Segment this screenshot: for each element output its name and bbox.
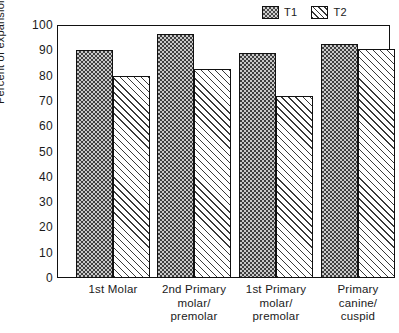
legend-label-t2: T2 xyxy=(333,6,346,18)
y-tick-label-80: 80 xyxy=(0,69,53,83)
y-tick-label-70: 70 xyxy=(0,94,53,108)
x-axis-category-labels: 1st Molar2nd Primarymolar/premolar1st Pr… xyxy=(57,283,390,333)
y-axis-tick-labels: 1009080706050403020100 xyxy=(0,0,53,333)
legend-label-t1: T1 xyxy=(284,6,297,18)
y-tick-label-50: 50 xyxy=(0,145,53,159)
y-tick-label-0: 0 xyxy=(0,271,53,285)
y-tick-label-20: 20 xyxy=(0,220,53,234)
y-tick-label-30: 30 xyxy=(0,195,53,209)
y-tick-label-40: 40 xyxy=(0,170,53,184)
bar-series-container xyxy=(57,25,390,278)
legend-entry-t1: T1 xyxy=(262,6,297,19)
y-tick-label-100: 100 xyxy=(0,18,53,32)
x-category-label-4: Primarycanine/cuspid xyxy=(308,283,399,324)
y-tick-label-90: 90 xyxy=(0,43,53,57)
x-category-line: Primary xyxy=(308,283,399,297)
bar-group-1 xyxy=(76,25,150,278)
legend-entry-t2: T2 xyxy=(311,6,346,19)
bar-t2-2[interactable] xyxy=(194,69,231,278)
bar-t1-3[interactable] xyxy=(239,53,276,278)
bar-t1-1[interactable] xyxy=(76,50,113,278)
legend-swatch-t2-icon xyxy=(311,6,328,19)
bar-t1-4[interactable] xyxy=(321,44,358,278)
bar-group-3 xyxy=(239,25,313,278)
x-category-line: cuspid xyxy=(308,310,399,324)
bar-t1-2[interactable] xyxy=(157,34,194,278)
bar-group-2 xyxy=(157,25,231,278)
bar-t2-3[interactable] xyxy=(276,96,313,278)
bar-t2-4[interactable] xyxy=(358,49,395,278)
chart-legend: T1 T2 xyxy=(262,3,347,21)
bar-t2-1[interactable] xyxy=(113,76,150,278)
x-category-line: canine/ xyxy=(308,297,399,311)
y-tick-label-10: 10 xyxy=(0,246,53,260)
legend-swatch-t1-icon xyxy=(262,6,279,19)
bar-group-4 xyxy=(321,25,395,278)
y-tick-label-60: 60 xyxy=(0,119,53,133)
